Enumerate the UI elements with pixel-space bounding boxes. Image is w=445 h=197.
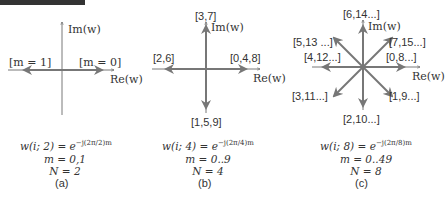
panel-b-label-down: [1,5,9]: [191, 117, 222, 128]
panel-c-label-down: [2,10...]: [343, 114, 380, 125]
panel-a-im-axis-label: Im(w): [68, 24, 101, 35]
panel-c-label-up: [6,14...]: [343, 9, 380, 20]
panel-c-formula: w(i; 8) = e−j(2π/8)m m = 0..49 N = 8: [318, 137, 414, 178]
panel-a-m-range: m = 0,1: [44, 153, 86, 165]
panel-a-formula-lhs: w(i; 2) = e: [20, 140, 76, 152]
panel-a-caption: (a): [55, 177, 68, 189]
panel-a-n-value: N = 2: [49, 165, 80, 177]
panel-b-m-range: m = 0..9: [185, 153, 230, 165]
panel-b-formula-lhs: w(i; 4) = e: [162, 140, 218, 152]
panel-c-label-downright: [1,9...]: [389, 91, 420, 102]
panel-c-im-axis-label: Im(w): [368, 21, 401, 32]
panel-b-re-axis-label: Re(w): [253, 73, 286, 84]
panel-c-label-upleft: [5,13 ...]: [293, 37, 333, 48]
panel-a-re-axis-label: Re(w): [110, 74, 143, 85]
panel-c-formula-exponent: −j(2π/8)m: [376, 139, 412, 147]
panel-c-re-axis-label: Re(w): [412, 71, 445, 82]
panel-b-label-right: [0,4,8]: [230, 53, 261, 64]
panel-c-label-left: [4,12...]: [304, 52, 341, 63]
panel-a-label-right: [m = 0]: [79, 57, 121, 68]
panel-c-label-upright: [7,15...]: [389, 37, 426, 48]
panel-c-label-downleft: [3,11...]: [292, 91, 328, 102]
panel-c-label-right: [0,8...]: [386, 52, 417, 63]
panel-b-label-left: [2,6]: [153, 53, 174, 64]
panel-b-formula: w(i; 4) = e−j(2π/4)m m = 0..9 N = 4: [160, 137, 256, 178]
panel-a-formula: w(i; 2) = e−j(2π/2)m m = 0,1 N = 2: [20, 137, 110, 178]
panel-b-axes: [152, 22, 260, 113]
panel-b-caption: (b): [198, 177, 211, 189]
panel-a-label-left: [m = 1]: [9, 57, 51, 68]
panel-a-formula-exponent: −j(2π/2)m: [76, 139, 112, 147]
panel-b-formula-exponent: −j(2π/4)m: [218, 139, 254, 147]
panel-c-formula-lhs: w(i; 8) = e: [320, 140, 376, 152]
panel-c-n-value: N = 8: [350, 165, 381, 177]
panel-b-n-value: N = 4: [192, 165, 223, 177]
panel-c-caption: (c): [355, 177, 368, 189]
panel-b-im-axis-label: Im(w): [211, 22, 244, 33]
panel-c-m-range: m = 0..49: [340, 153, 392, 165]
